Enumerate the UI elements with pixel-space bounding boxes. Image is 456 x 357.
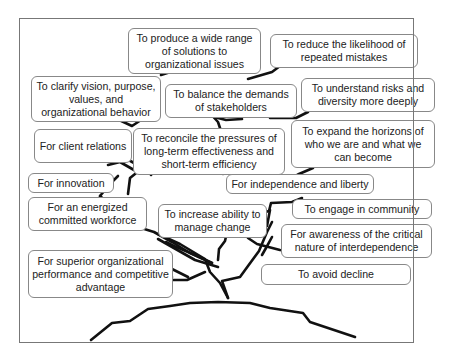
box-text: To produce a wide range of solutions to … [132, 32, 257, 71]
box-understand-risks: To understand risks and diversity more d… [301, 78, 435, 112]
box-text: To balance the demands of stakeholders [169, 88, 293, 114]
box-text: For client relations [40, 140, 127, 153]
box-increase-ability: To increase ability to manage change [158, 204, 267, 238]
box-text: For an energized committed workforce [32, 201, 143, 227]
box-balance-stakeholders: To balance the demands of stakeholders [165, 84, 297, 118]
box-produce-solutions: To produce a wide range of solutions to … [128, 28, 261, 74]
box-clarify-vision: To clarify vision, purpose, values, and … [31, 76, 161, 122]
box-expand-horizons: To expand the horizons of who we are and… [291, 120, 435, 168]
box-text: To reconcile the pressures of long-term … [137, 132, 281, 171]
box-text: For awareness of the critical nature of … [285, 228, 428, 254]
box-text: To expand the horizons of who we are and… [295, 125, 431, 164]
box-text: To engage in community [305, 203, 420, 216]
box-text: To clarify vision, purpose, values, and … [35, 80, 157, 119]
box-innovation: For innovation [28, 173, 114, 193]
box-reconcile-pressures: To reconcile the pressures of long-term … [133, 128, 285, 175]
box-client-relations: For client relations [34, 129, 132, 163]
box-energized-workforce: For an energized committed workforce [28, 197, 147, 231]
box-superior-performance: For superior organizational performance … [28, 250, 173, 298]
box-text: To avoid decline [298, 268, 374, 281]
box-engage-community: To engage in community [292, 199, 432, 219]
box-reduce-mistakes: To reduce the likelihood of repeated mis… [270, 34, 418, 68]
box-text: For independence and liberty [231, 178, 368, 191]
box-text: For superior organizational performance … [32, 255, 169, 294]
box-text: To increase ability to manage change [162, 208, 263, 234]
box-text: For innovation [37, 177, 104, 190]
box-text: To understand risks and diversity more d… [305, 82, 431, 108]
box-independence-liberty: For independence and liberty [226, 174, 374, 194]
box-text: To reduce the likelihood of repeated mis… [274, 38, 414, 64]
box-awareness-interdependence: For awareness of the critical nature of … [281, 224, 432, 258]
box-avoid-decline: To avoid decline [261, 264, 411, 285]
